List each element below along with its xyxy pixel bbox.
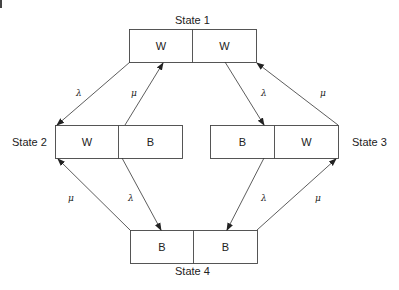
state4-cell-1: B (131, 241, 193, 253)
state3-label: State 3 (352, 136, 387, 148)
rate-4-to-3: μ (315, 193, 321, 203)
state3-cell-2: W (275, 136, 338, 148)
state4-label: State 4 (175, 265, 210, 277)
rate-2-to-1: μ (131, 88, 137, 98)
rate-3-to-4: λ (261, 193, 267, 203)
arrow-1-to-3 (225, 62, 264, 125)
state3-cell-1: B (211, 136, 274, 148)
state2-cell-2: B (119, 136, 182, 148)
state2-cell-1: W (56, 136, 118, 148)
rate-4-to-2: μ (68, 193, 74, 203)
arrow-4-to-3 (257, 159, 336, 230)
rate-3-to-1: μ (320, 88, 326, 98)
state4-cell-2: B (194, 241, 257, 253)
state2-label: State 2 (12, 136, 47, 148)
state1-cell-1: W (130, 40, 192, 52)
rate-2-to-4: λ (128, 193, 134, 203)
state1-cell-2: W (193, 40, 256, 52)
rate-1-to-3: λ (261, 88, 267, 98)
state1-label: State 1 (175, 14, 210, 26)
arrow-3-to-4 (227, 158, 264, 230)
arrow-1-to-2 (57, 62, 130, 125)
rate-1-to-2: λ (76, 88, 82, 98)
